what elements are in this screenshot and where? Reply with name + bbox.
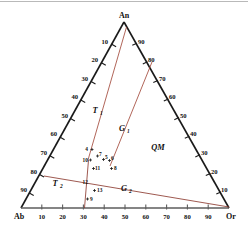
data-point-6: 6 <box>108 155 114 162</box>
left-edge-ticks <box>29 44 116 195</box>
left-tick-label-70: 70 <box>40 149 47 156</box>
right-tick-label-20: 20 <box>211 168 218 175</box>
field-label-g2-sub: 2 <box>128 188 132 194</box>
ternary-diagram: An Ab Or 10 20 30 40 50 60 70 80 90 90 8… <box>0 0 248 233</box>
right-edge-line <box>124 22 229 208</box>
data-point-label-7: 7 <box>99 151 102 157</box>
apex-label-ab: Ab <box>14 212 25 221</box>
bottom-tick-label-60: 60 <box>143 213 150 220</box>
data-point-12: 12 <box>83 179 89 185</box>
field-label-t2-text: T <box>52 179 58 188</box>
data-point-label-5: 5 <box>105 154 108 160</box>
right-tick-label-30: 30 <box>201 149 208 156</box>
bottom-tick-label-80: 80 <box>184 213 191 220</box>
divider-left80-to-or <box>44 176 229 207</box>
data-point-4: 4 <box>85 146 93 152</box>
data-point-label-10: 10 <box>83 157 89 163</box>
data-point-5: 5 <box>102 154 108 161</box>
left-tick-label-30: 30 <box>81 75 88 82</box>
data-point-label-9: 9 <box>90 196 93 202</box>
data-point-11: 11 <box>92 165 100 171</box>
field-label-qm-text: QM <box>151 143 165 152</box>
field-label-t2: T 2 <box>52 179 63 189</box>
bottom-tick-label-50: 50 <box>122 213 129 220</box>
field-label-g2: G 2 <box>121 184 132 194</box>
data-point-label-8: 8 <box>114 165 117 171</box>
bottom-tick-label-10: 10 <box>39 213 46 220</box>
right-edge-tick-labels: 90 80 70 60 50 40 30 20 10 <box>138 38 228 193</box>
bottom-tick-label-30: 30 <box>80 213 87 220</box>
right-tick-label-70: 70 <box>159 75 166 82</box>
right-tick-label-90: 90 <box>138 38 145 45</box>
field-label-g1: G 1 <box>119 124 130 134</box>
bottom-tick-label-70: 70 <box>163 213 170 220</box>
right-tick-label-50: 50 <box>180 112 187 119</box>
left-tick-label-80: 80 <box>30 168 37 175</box>
bottom-tick-label-40: 40 <box>101 213 108 220</box>
right-tick-label-60: 60 <box>169 93 176 100</box>
right-tick-label-80: 80 <box>148 56 155 63</box>
field-label-t1-text: T <box>92 106 98 115</box>
data-point-7: 7 <box>96 151 102 158</box>
data-point-10: 10 <box>83 157 92 163</box>
left-tick-label-50: 50 <box>61 112 68 119</box>
data-point-label-4: 4 <box>85 146 88 152</box>
data-point-13: 13 <box>93 187 103 193</box>
data-point-label-6: 6 <box>111 155 114 161</box>
bottom-edge-tick-labels: 10 20 30 40 50 60 70 80 90 <box>39 213 213 220</box>
apex-label-an: An <box>119 11 130 20</box>
ternary-plot-svg: An Ab Or 10 20 30 40 50 60 70 80 90 90 8… <box>0 0 248 233</box>
bottom-tick-label-90: 90 <box>205 213 212 220</box>
field-label-t1: T 1 <box>92 106 103 116</box>
data-point-label-13: 13 <box>97 187 103 193</box>
right-tick-label-10: 10 <box>221 186 228 193</box>
left-edge-line <box>21 22 124 208</box>
field-label-t1-sub: 1 <box>100 110 103 116</box>
left-tick-label-90: 90 <box>20 186 27 193</box>
field-label-g1-sub: 1 <box>127 128 130 134</box>
field-label-qm: QM <box>151 143 165 152</box>
bottom-tick-label-20: 20 <box>59 213 66 220</box>
field-label-t2-sub: 2 <box>59 183 63 189</box>
left-tick-label-40: 40 <box>71 93 78 100</box>
data-points: 4 7 5 6 10 <box>83 146 117 202</box>
field-label-g1-text: G <box>119 124 125 133</box>
data-point-9: 9 <box>86 196 93 202</box>
left-tick-label-20: 20 <box>91 56 98 63</box>
divider-right80-to-base <box>110 62 152 166</box>
left-tick-label-10: 10 <box>101 38 108 45</box>
apex-label-or: Or <box>226 212 236 221</box>
data-point-label-11: 11 <box>95 165 100 171</box>
left-tick-label-60: 60 <box>50 130 57 137</box>
field-label-g2-text: G <box>121 184 127 193</box>
data-point-8: 8 <box>110 165 117 171</box>
data-point-label-12: 12 <box>83 179 89 185</box>
right-tick-label-40: 40 <box>190 130 197 137</box>
